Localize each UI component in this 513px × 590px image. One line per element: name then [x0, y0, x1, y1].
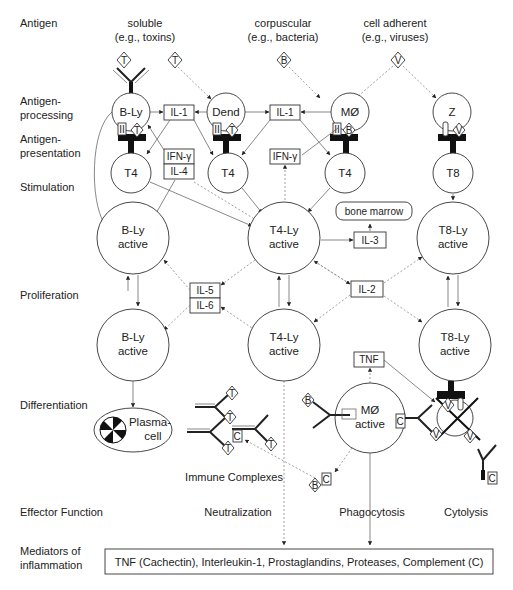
svg-text:T: T	[227, 412, 233, 423]
svg-text:T8: T8	[446, 167, 459, 179]
svg-text:active: active	[269, 238, 299, 250]
cytokine-il1-right: IL-1	[270, 105, 300, 120]
row-label-antigen: Antigen	[20, 17, 57, 29]
svg-text:TNF (Cachectin), Interleukin-1: TNF (Cachectin), Interleukin-1, Prostagl…	[115, 556, 484, 568]
cytokine-ifn-il4: IFN-γ IL-4	[164, 149, 194, 179]
cytokine-il1-left: IL-1	[164, 105, 194, 120]
immune-complexes-label: Immune Complexes	[185, 471, 283, 483]
antigen-diamond-toxin-1: T	[117, 52, 131, 68]
svg-text:T: T	[268, 439, 274, 450]
svg-text:IL-5: IL-5	[196, 285, 214, 296]
effector-phagocytosis: Phagocytosis	[339, 506, 405, 518]
svg-text:bone marrow: bone marrow	[345, 206, 404, 217]
immune-response-diagram: Antigen Antigen- processing Antigen- pre…	[0, 0, 513, 590]
antigen-corpuscular: corpuscular	[255, 17, 312, 29]
effector-cytolysis: Cytolysis	[444, 506, 489, 518]
row-label-mediators-2: inflammation	[20, 559, 82, 571]
row-label-stimulation: Stimulation	[20, 181, 74, 193]
svg-text:T4-Ly: T4-Ly	[270, 331, 299, 343]
svg-text:T4: T4	[221, 167, 235, 179]
svg-text:active: active	[355, 418, 385, 430]
cell-t4ly-active: T4-Ly active	[248, 202, 320, 274]
svg-text:MØ: MØ	[361, 404, 380, 416]
cell-t4ly-active-2: T4-Ly active	[248, 309, 320, 381]
cytokine-il2: IL-2	[351, 281, 383, 297]
svg-text:B: B	[312, 480, 319, 491]
svg-text:IL-6: IL-6	[196, 300, 214, 311]
svg-text:MØ: MØ	[341, 106, 360, 118]
row-label-presentation: Antigen-	[20, 133, 61, 145]
svg-text:V: V	[445, 400, 452, 411]
cell-t4-left: T4	[111, 153, 151, 193]
cell-z: Z	[433, 93, 471, 131]
svg-text:B: B	[305, 395, 312, 406]
svg-text:B-Ly: B-Ly	[121, 331, 144, 343]
row-labels: Antigen Antigen- processing Antigen- pre…	[20, 17, 103, 571]
svg-text:T: T	[172, 55, 178, 66]
cytokine-ifn-center: IFN-γ	[270, 149, 300, 164]
svg-text:T4: T4	[338, 167, 352, 179]
svg-text:T: T	[134, 125, 140, 136]
svg-text:IFN-γ: IFN-γ	[167, 151, 191, 162]
svg-text:active: active	[118, 238, 148, 250]
svg-text:T: T	[229, 388, 235, 399]
svg-text:B: B	[281, 55, 288, 66]
svg-text:II: II	[119, 124, 125, 135]
antigen-corpuscular-example: (e.g., bacteria)	[248, 31, 319, 43]
svg-text:C: C	[396, 416, 403, 427]
mediators-box: TNF (Cachectin), Interleukin-1, Prostagl…	[105, 549, 493, 574]
svg-text:T8-Ly: T8-Ly	[441, 331, 470, 343]
svg-text:cell: cell	[144, 430, 161, 442]
svg-text:TNF: TNF	[359, 354, 378, 365]
bone-marrow-label: bone marrow	[336, 202, 412, 220]
svg-text:IFN-γ: IFN-γ	[273, 151, 297, 162]
svg-text:C: C	[322, 474, 329, 485]
svg-text:C: C	[488, 473, 495, 484]
svg-text:Plasma-: Plasma-	[129, 416, 171, 428]
antigen-soluble-example: (e.g., toxins)	[115, 31, 176, 43]
antigen-adherent-example: (e.g., viruses)	[362, 31, 429, 43]
svg-text:T: T	[229, 125, 235, 136]
svg-text:II: II	[334, 124, 340, 135]
row-label-processing-2: processing	[20, 109, 73, 121]
antigen-diamond-virus: V	[391, 52, 405, 68]
svg-text:IL-1: IL-1	[276, 107, 294, 118]
cytolysis-target-icon: V V V C	[430, 381, 497, 484]
svg-text:T4: T4	[124, 167, 138, 179]
row-label-effector: Effector Function	[20, 506, 103, 518]
effector-neutralization: Neutralization	[204, 506, 271, 518]
svg-text:C: C	[233, 431, 240, 442]
bacteria-complement-icon: B C	[309, 473, 331, 492]
cell-bly-active: B-Ly active	[97, 202, 169, 274]
cell-t8ly-active: T8-Ly active	[417, 202, 489, 274]
svg-text:IL-2: IL-2	[358, 284, 376, 295]
svg-text:V: V	[433, 429, 440, 440]
svg-text:V: V	[456, 125, 463, 136]
svg-text:Z: Z	[448, 106, 455, 118]
row-label-differentiation: Differentiation	[20, 399, 88, 411]
cell-t4-right: T4	[325, 153, 365, 193]
svg-text:active: active	[440, 345, 470, 357]
svg-text:T4-Ly: T4-Ly	[270, 224, 299, 236]
svg-text:V: V	[467, 431, 474, 442]
antigen-diamond-toxin-2: T	[168, 52, 182, 68]
row-label-mediators: Mediators of	[20, 545, 81, 557]
svg-text:Dend: Dend	[212, 106, 240, 118]
antigen-adherent: cell adherent	[364, 17, 427, 29]
cell-t8ly-active-2: T8-Ly active	[419, 309, 491, 381]
svg-text:B: B	[346, 125, 353, 136]
cell-plasma: Plasma- cell	[94, 408, 172, 452]
svg-text:T: T	[121, 55, 127, 66]
svg-text:IL-3: IL-3	[361, 235, 379, 246]
svg-text:B-Ly: B-Ly	[121, 224, 144, 236]
cell-t4-center: T4	[208, 153, 248, 193]
svg-text:IL-1: IL-1	[170, 107, 188, 118]
cytokine-il5-il6: IL-5 IL-6	[190, 283, 220, 313]
cell-macrophage-active: MØ active	[335, 383, 405, 453]
svg-text:active: active	[269, 345, 299, 357]
svg-text:V: V	[395, 55, 402, 66]
svg-text:active: active	[118, 345, 148, 357]
row-label-processing: Antigen-	[20, 95, 61, 107]
antigen-diamond-bacteria: B	[277, 52, 291, 68]
cytokine-tnf: TNF	[354, 352, 384, 367]
